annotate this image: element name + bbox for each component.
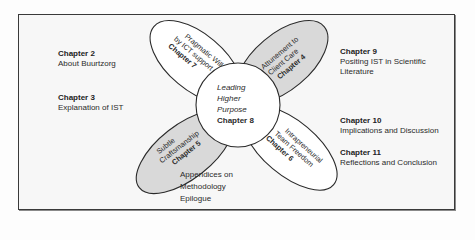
chapter-description: Reflections and Conclusion <box>340 158 437 168</box>
label-chapter-9: Chapter 9 Positing IST in Scientific Lit… <box>340 47 426 77</box>
center-chapter: Chapter 8 <box>217 116 254 125</box>
label-chapter-10: Chapter 10 Implications and Discussion <box>340 116 439 136</box>
appendices-line2: Methodology <box>180 181 233 193</box>
chapter-heading: Chapter 9 <box>340 47 426 57</box>
label-chapter-11: Chapter 11 Reflections and Conclusion <box>340 148 437 168</box>
chapter-heading: Chapter 11 <box>340 148 437 158</box>
chapter-heading: Chapter 2 <box>58 49 116 59</box>
chapter-heading: Chapter 10 <box>340 116 439 126</box>
chapter-description: Explanation of IST <box>58 103 123 113</box>
label-appendices: Appendices on Methodology Epilogue <box>180 169 233 205</box>
label-chapter-2: Chapter 2 About Buurtzorg <box>58 49 116 69</box>
chapter-description: Positing IST in Scientific <box>340 57 426 67</box>
center-line1: Leading <box>217 83 246 92</box>
chapter-description-cont: Literature <box>340 67 426 77</box>
appendices-line3: Epilogue <box>180 193 233 205</box>
chapter-description: Implications and Discussion <box>340 126 439 136</box>
chapter-description: About Buurtzorg <box>58 59 116 69</box>
label-chapter-3: Chapter 3 Explanation of IST <box>58 93 123 113</box>
center-line2: Higher <box>217 94 241 103</box>
chapter-heading: Chapter 3 <box>58 93 123 103</box>
center-circle-chapter-8: Leading Higher Purpose Chapter 8 <box>196 63 280 147</box>
center-line3: Purpose <box>217 105 247 114</box>
appendices-line1: Appendices on <box>180 169 233 181</box>
